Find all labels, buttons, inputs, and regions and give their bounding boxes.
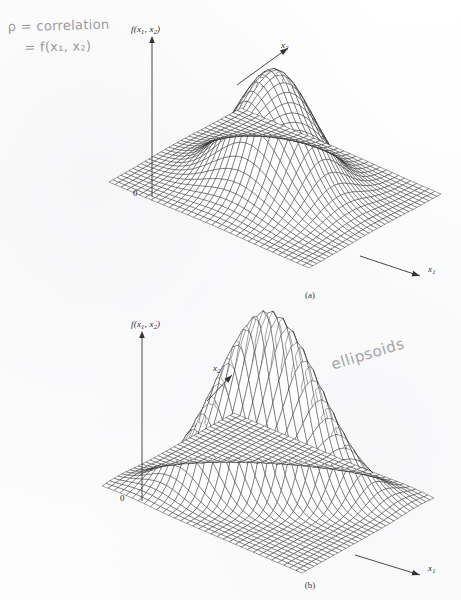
panel-a-origin-label: 0 xyxy=(133,188,138,198)
handwritten-correlation-note: ρ = correlation = f(x₁, x₂) xyxy=(7,15,110,59)
panel-b-caption: (b) xyxy=(290,580,330,590)
handwritten-correlation-line2: = f(x₁, x₂) xyxy=(24,36,110,58)
panel-a-x2-axis-label: x2 xyxy=(281,40,289,51)
panel-a-caption: (a) xyxy=(290,290,330,300)
panel-a-x1-axis-label: x1 xyxy=(428,264,436,275)
panel-b-x1-axis-label: x1 xyxy=(428,563,436,574)
panel-a-vertical-axis-label: f(x1, x2) xyxy=(131,24,160,35)
panel-b-origin-label: 0 xyxy=(120,493,125,503)
panel-b-x2-axis-label: x2 xyxy=(213,363,221,374)
panel-b-vertical-axis-label: f(x1, x2) xyxy=(131,319,160,330)
handwritten-correlation-line1: ρ = correlation xyxy=(8,17,110,35)
